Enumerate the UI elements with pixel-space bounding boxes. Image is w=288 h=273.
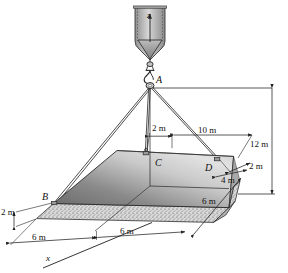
x-axis-label: x — [46, 254, 50, 263]
point-d-label: D — [205, 163, 212, 173]
dimension-b-offset: 2 m — [1, 208, 15, 217]
figure-canvas: z A 2 m 10 m 12 m C D 2 m 4 m 6 m B 2 m … — [0, 0, 288, 273]
dimension-x-second: 6 m — [120, 227, 134, 236]
dimension-right-edge: 6 m — [202, 197, 216, 206]
z-axis-label: z — [147, 11, 151, 20]
dimension-d-edge: 2 m — [249, 162, 263, 171]
point-b-label: B — [42, 192, 48, 202]
point-a-label: A — [156, 75, 162, 85]
dimension-c-offset: 2 m — [152, 124, 166, 133]
dimension-to-d: 10 m — [198, 126, 216, 135]
dimension-x-first: 6 m — [32, 233, 46, 242]
dimension-hook-height: 12 m — [250, 140, 268, 149]
dimension-d-depth: 4 m — [221, 176, 235, 185]
crane-hook — [144, 59, 154, 89]
point-c-label: C — [155, 158, 162, 168]
